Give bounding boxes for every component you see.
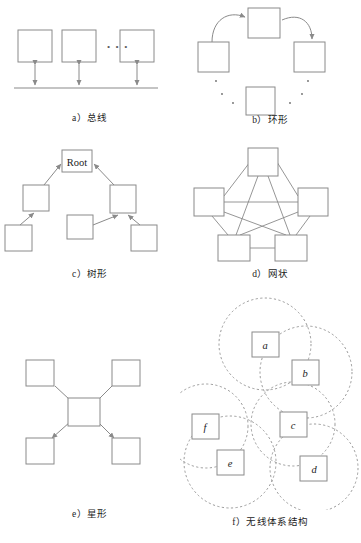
ring-topology-drawing xyxy=(180,0,361,120)
ring-node-right xyxy=(294,42,325,72)
mesh-node-right xyxy=(298,188,328,216)
tree-root-label: Root xyxy=(67,157,88,168)
mesh-edge-left-bottomleft xyxy=(212,216,228,235)
panel-tree-caption: c）树形 xyxy=(0,266,180,280)
bus-ellipsis: • • • xyxy=(107,42,129,52)
mesh-node-top xyxy=(248,148,278,176)
star-edge-center-bottomleft xyxy=(52,422,70,438)
tree-node-leaf-mid xyxy=(67,215,93,239)
tree-node-leaf-left xyxy=(5,225,32,251)
ring-link-left-to-top xyxy=(212,15,245,42)
ring-continuation-dots xyxy=(215,80,309,104)
star-node-center xyxy=(68,398,100,426)
star-node-bottom-right xyxy=(112,438,140,464)
star-node-top-right xyxy=(112,360,140,386)
ring-link-top-to-right xyxy=(282,17,312,39)
panel-ring-topology: b）环形 xyxy=(180,0,361,140)
mesh-edge-right-bottomright xyxy=(296,216,310,235)
mesh-edge-top-right xyxy=(277,162,298,196)
star-topology-drawing xyxy=(0,292,180,502)
mesh-node-bottom-left xyxy=(218,235,250,261)
panel-ring-caption: b）环形 xyxy=(180,112,361,126)
mesh-edge-top-bottomleft xyxy=(236,176,258,235)
star-node-top-left xyxy=(26,360,54,386)
mesh-edge-left-bottomright xyxy=(224,212,286,235)
wireless-coverage-circles xyxy=(180,298,358,510)
mesh-node-bottom-right xyxy=(275,235,307,261)
ring-node-left xyxy=(198,42,229,72)
bus-node-2 xyxy=(62,30,96,62)
panel-wireless-caption: f）无线体系结构 xyxy=(180,514,361,528)
mesh-edge-top-left xyxy=(224,162,250,196)
tree-node-right xyxy=(110,185,136,213)
wireless-label-d: d xyxy=(311,464,317,475)
wireless-label-b: b xyxy=(302,368,307,379)
tree-edge-leafright-to-right xyxy=(128,215,140,225)
star-node-bottom-left xyxy=(26,438,54,464)
mesh-node-left xyxy=(194,188,224,216)
tree-node-leaf-right xyxy=(131,225,157,251)
ring-node-top xyxy=(248,8,280,38)
wireless-label-c: c xyxy=(291,420,296,431)
bus-topology-drawing: • • • xyxy=(0,0,180,110)
wireless-label-e: e xyxy=(228,458,233,469)
tree-edge-leafmid-to-right xyxy=(93,215,118,225)
panel-star-topology: e）星形 xyxy=(0,292,180,543)
wireless-topology-drawing: a b c d e f xyxy=(180,292,361,510)
tree-topology-drawing: Root xyxy=(0,140,180,265)
panel-mesh-caption: d）网状 xyxy=(180,266,361,280)
mesh-topology-drawing xyxy=(180,140,361,265)
mesh-edge-top-bottomright xyxy=(268,176,290,235)
panel-tree-topology: Root c）树形 xyxy=(0,140,180,292)
panel-bus-topology: • • • a）总线 xyxy=(0,0,180,140)
mesh-edge-right-bottomleft xyxy=(240,212,298,235)
panel-wireless-topology: a b c d e f f）无线体系结构 xyxy=(180,292,361,543)
wireless-label-a: a xyxy=(262,340,267,351)
bus-node-1 xyxy=(18,30,52,62)
panel-star-caption: e）星形 xyxy=(0,506,180,520)
ring-node-bottom xyxy=(246,87,275,115)
wireless-nodes xyxy=(192,332,327,481)
network-topology-figure: • • • a）总线 xyxy=(0,0,361,543)
mesh-nodes xyxy=(194,148,328,261)
tree-edge-right-to-root xyxy=(94,164,114,185)
panel-mesh-topology: d）网状 xyxy=(180,140,361,292)
tree-edge-left-to-root xyxy=(44,164,61,185)
tree-edge-leafleft-to-left xyxy=(20,213,34,225)
tree-node-left xyxy=(23,185,49,211)
panel-bus-caption: a）总线 xyxy=(0,110,180,124)
